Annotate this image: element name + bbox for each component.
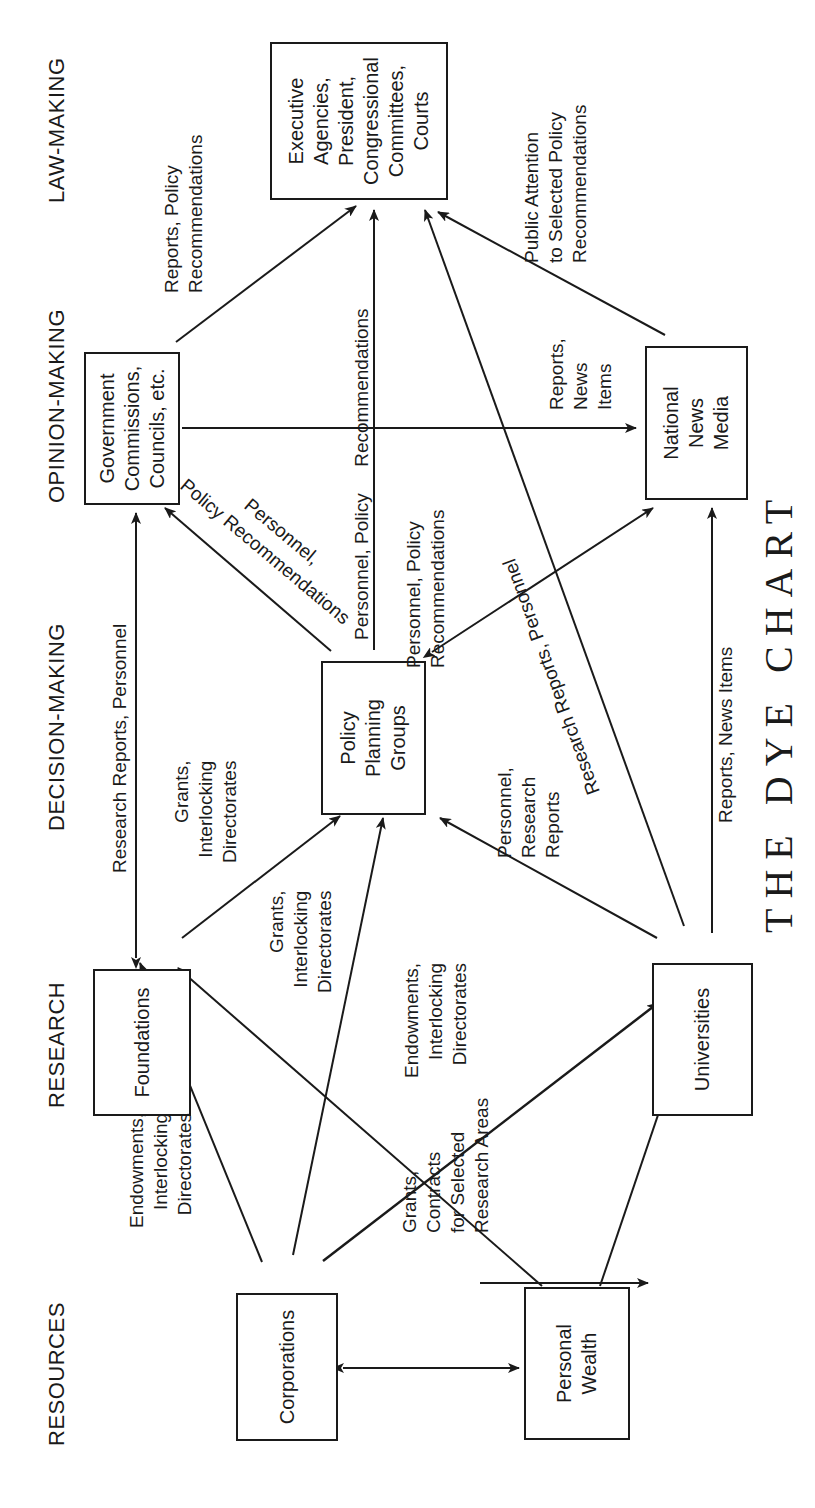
node-national-news-media: National News Media — [645, 346, 748, 500]
node-label: Corporations — [275, 1310, 300, 1425]
node-government-commissions: Government Commissions, Councils, etc. — [84, 352, 180, 505]
node-universities: Universities — [652, 963, 753, 1116]
edge-label-corp-policy: Grants, Interlocking Directorates — [265, 891, 337, 993]
node-label: Policy Planning Groups — [336, 699, 411, 777]
edge-label-to-universities: Endowments, Interlocking Directorates — [400, 963, 472, 1078]
stage-label-law-making: LAW-MAKING — [44, 57, 70, 203]
stage-label-opinion-making: OPINION-MAKING — [44, 309, 70, 503]
node-personal-wealth: Personal Wealth — [524, 1287, 630, 1440]
node-executive-agencies: Executive Agencies, President, Congressi… — [270, 42, 448, 200]
edge-label-gov-news: Reports, News Items — [545, 338, 617, 410]
stage-label-decision-making: DECISION-MAKING — [44, 623, 70, 831]
node-policy-planning-groups: Policy Planning Groups — [321, 661, 426, 815]
edge-label-gov-executive: Reports, Policy Recommendations — [160, 135, 208, 293]
node-label: National News Media — [659, 386, 734, 459]
node-foundations: Foundations — [93, 969, 191, 1116]
dye-chart-diagram: line, path.edge { stroke: #1a1a1a; strok… — [0, 0, 815, 1508]
edge-label-foundations-universities: Grants, Contracts for Selected Research … — [398, 1098, 494, 1233]
edge-corp-policy — [293, 818, 383, 1255]
edge-label-foundations-gov: Research Reports, Personnel — [108, 624, 132, 873]
stage-label-research: RESEARCH — [44, 982, 70, 1108]
edge-label-news-executive: Public Attention to Selected Policy Reco… — [520, 105, 592, 263]
node-label: Personal Wealth — [552, 1324, 602, 1403]
edge-label-foundations-policy: Grants, Interlocking Directorates — [170, 761, 242, 863]
node-label: Universities — [690, 988, 715, 1091]
node-label: Foundations — [130, 987, 155, 1097]
edge-label-universities-news: Reports, News Items — [714, 647, 738, 823]
stage-label-resources: RESOURCES — [44, 1302, 70, 1446]
edge-label-universities-policy: Personnel, Research Reports — [493, 767, 565, 858]
edge-label-policy-news: Personnel, Policy Recommendations — [402, 510, 450, 668]
edge-label-corp-foundations: Endowments, Interlocking Directorates — [125, 1113, 197, 1228]
node-label: Government Commissions, Councils, etc. — [95, 366, 170, 492]
node-label: Executive Agencies, President, Congressi… — [284, 57, 434, 185]
node-corporations: Corporations — [236, 1293, 338, 1441]
edge-label-policy-executive: Personnel, Policy Recommendations — [350, 308, 374, 640]
chart-title: THE DYE CHART — [755, 490, 802, 933]
